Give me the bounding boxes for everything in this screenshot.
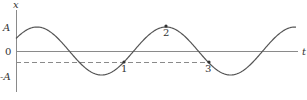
point-1-label: 1: [121, 63, 127, 74]
point-3: 3: [205, 60, 211, 74]
point-1: 1: [121, 60, 127, 74]
point-3-label: 3: [205, 63, 211, 74]
point-2: 2: [163, 24, 169, 38]
oscillation-diagram: x t A 0 -A 1 2 3: [0, 0, 307, 100]
y-axis-label: x: [13, 0, 19, 10]
sine-curve: [16, 27, 296, 75]
tick-label-zero: 0: [5, 46, 11, 57]
tick-label-A: A: [2, 22, 10, 33]
t-axis-label: t: [302, 46, 307, 57]
point-2-label: 2: [163, 27, 169, 38]
tick-label-neg-A: -A: [0, 71, 11, 82]
